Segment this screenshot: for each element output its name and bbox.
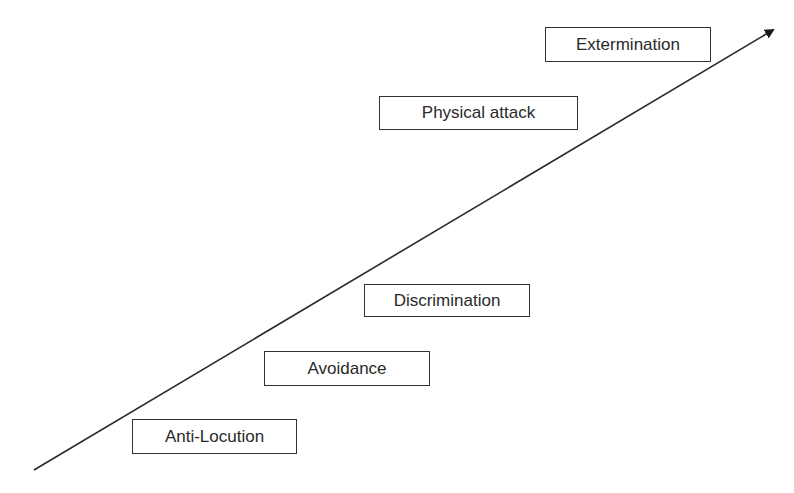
stage-discrimination: Discrimination: [364, 284, 530, 317]
escalation-arrow: [0, 0, 794, 493]
escalation-diagram: Anti-Locution Avoidance Discrimination P…: [0, 0, 794, 493]
stage-label: Discrimination: [394, 291, 501, 311]
stage-extermination: Extermination: [545, 27, 711, 62]
stage-label: Avoidance: [307, 359, 386, 379]
stage-label: Anti-Locution: [165, 427, 264, 447]
stage-label: Physical attack: [422, 103, 535, 123]
stage-label: Extermination: [576, 35, 680, 55]
stage-avoidance: Avoidance: [264, 351, 430, 386]
stage-anti-locution: Anti-Locution: [132, 419, 297, 454]
stage-physical-attack: Physical attack: [379, 96, 578, 130]
